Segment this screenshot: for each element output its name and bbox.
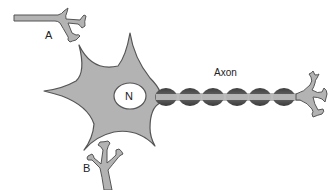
neuron-diagram: A B N Axon	[0, 0, 335, 190]
neuron-b-dendrite	[87, 141, 123, 190]
axon	[155, 88, 306, 106]
axon-terminal	[296, 71, 327, 117]
label-b: B	[83, 163, 90, 174]
label-axon: Axon	[214, 68, 237, 78]
label-a: A	[45, 30, 52, 41]
label-nucleus: N	[125, 91, 133, 102]
